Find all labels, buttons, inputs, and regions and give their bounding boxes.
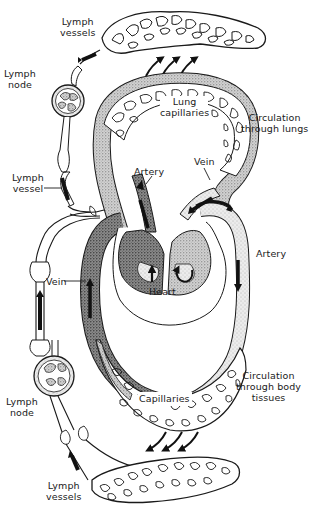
label-circulation-lungs: Circulation through lungs	[241, 112, 308, 134]
label-heart: Heart	[149, 286, 176, 297]
label-circulation-body: Circulation through body tissues	[236, 370, 301, 403]
label-vein-left: Vein	[46, 276, 67, 287]
label-vein-upper: Vein	[194, 156, 215, 167]
lymph-node-top	[52, 85, 84, 117]
label-artery-upper: Artery	[134, 166, 164, 177]
lymph-vessels-top-network	[102, 12, 266, 76]
label-lung-capillaries: Lung capillaries	[160, 96, 209, 118]
label-lymph-vessel-mid: Lymph vessel	[12, 172, 44, 194]
label-lymph-vessels-top: Lymph vessels	[60, 16, 96, 38]
lymph-vessel-top-to-node	[71, 50, 100, 86]
label-lymph-vessels-bottom: Lymph vessels	[46, 480, 82, 502]
label-capillaries: Capillaries	[139, 393, 190, 404]
pulmonary-artery	[132, 174, 156, 232]
lymph-vessels-bottom-network	[92, 432, 240, 503]
label-artery-right: Artery	[256, 248, 286, 259]
body-capillaries-network	[96, 340, 246, 431]
label-lymph-node-top: Lymph node	[4, 68, 36, 90]
arrows-to-lymph-bottom	[148, 432, 198, 450]
label-lymph-node-bottom: Lymph node	[6, 396, 38, 418]
